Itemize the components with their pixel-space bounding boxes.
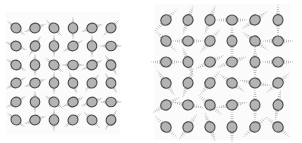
glyph-circle — [68, 60, 78, 70]
right-panel — [151, 4, 293, 142]
glyph-circle — [30, 97, 40, 107]
glyph-circle — [227, 36, 237, 47]
glyph-circle — [49, 115, 59, 125]
glyph-circle — [273, 57, 284, 67]
glyph-circle — [273, 15, 283, 26]
glyph-circle — [49, 78, 59, 88]
glyph-grid-figure — [0, 0, 302, 143]
glyph-circle — [273, 36, 284, 46]
glyph-circle — [49, 41, 59, 51]
glyph-circle — [106, 41, 116, 51]
glyph-circle — [161, 57, 172, 67]
glyph-circle — [87, 41, 97, 51]
panel-background — [154, 4, 290, 140]
glyph-circle — [30, 60, 40, 70]
glyph-circle — [250, 57, 260, 68]
glyph-circle — [68, 23, 78, 33]
panel-background — [6, 12, 120, 134]
figure-stage — [0, 0, 302, 143]
left-panel — [4, 12, 121, 134]
glyph-circle — [227, 122, 237, 133]
glyph-circle — [227, 15, 238, 25]
glyph-circle — [183, 36, 194, 46]
glyph-circle — [250, 100, 260, 111]
glyph-circle — [106, 97, 116, 107]
